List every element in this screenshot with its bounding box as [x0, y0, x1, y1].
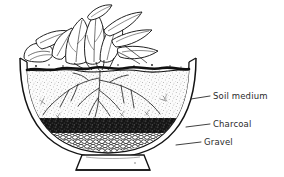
- leader-line-charcoal: [186, 124, 210, 127]
- leader-line-soil: [191, 96, 210, 99]
- substrate-layers: [20, 70, 196, 157]
- planter-cross-section-illustration: [0, 0, 284, 177]
- label-charcoal: Charcoal: [213, 119, 251, 129]
- label-gravel: Gravel: [204, 137, 233, 147]
- leader-line-gravel: [176, 142, 201, 145]
- diagram-canvas: Soil medium Charcoal Gravel: [0, 0, 284, 177]
- label-soil-medium: Soil medium: [213, 91, 268, 101]
- layer-soil-medium: [20, 70, 196, 119]
- pedestal-foot: [76, 155, 150, 170]
